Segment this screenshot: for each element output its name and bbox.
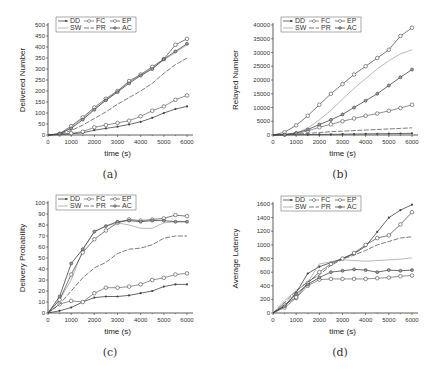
legend-entry-PR: PR — [96, 24, 106, 31]
y-tick-label: 300 — [35, 66, 46, 72]
legend-entry-AC: AC — [122, 202, 132, 209]
series-SW — [48, 222, 187, 313]
x-axis-label: time (s) — [104, 327, 131, 336]
y-tick-label: 800 — [260, 256, 271, 262]
x-tick-label: 3000 — [336, 139, 350, 145]
panel-caption: (a) — [102, 168, 117, 181]
series-DD — [48, 106, 187, 135]
y-tick-label: 40 — [38, 266, 45, 272]
legend-entry-SW: SW — [70, 202, 82, 209]
panel-caption: (b) — [332, 168, 348, 181]
y-tick-label: 1000 — [257, 242, 271, 248]
x-tick-label: 2000 — [88, 139, 102, 145]
y-axis-label: Average Latency — [231, 229, 240, 289]
x-tick-label: 6000 — [405, 317, 419, 323]
legend-entry-SW: SW — [295, 24, 307, 31]
x-tick-label: 0 — [46, 139, 50, 145]
x-tick-label: 0 — [46, 317, 50, 323]
y-tick-label: 35000 — [253, 36, 270, 42]
legend-entry-AC: AC — [122, 24, 132, 31]
y-axis-label: Delivered Number — [18, 47, 27, 112]
y-tick-label: 30 — [38, 277, 45, 283]
x-tick-label: 2000 — [313, 139, 327, 145]
y-tick-label: 400 — [35, 44, 46, 50]
y-tick-label: 50 — [38, 255, 45, 261]
figure-canvas: 0501001502002503003504004505000100020003… — [0, 0, 442, 375]
y-tick-label: 1600 — [257, 201, 271, 207]
series-AC — [273, 269, 412, 313]
legend-entry-DD: DD — [295, 17, 305, 24]
x-tick-label: 1000 — [289, 317, 303, 323]
y-tick-label: 0 — [42, 310, 46, 316]
y-tick-label: 450 — [35, 33, 46, 39]
legend-entry-DD: DD — [70, 195, 80, 202]
series-EP — [273, 28, 412, 135]
y-tick-label: 200 — [260, 296, 271, 302]
series-EP — [48, 39, 187, 135]
x-tick-label: 6000 — [180, 139, 194, 145]
y-tick-label: 20 — [38, 288, 45, 294]
y-tick-label: 50 — [38, 121, 45, 127]
chart-a: 0501001502002503003504004505000100020003… — [18, 17, 194, 181]
legend-entry-PR: PR — [96, 202, 106, 209]
y-tick-label: 0 — [42, 132, 46, 138]
x-axis-label: time (s) — [329, 327, 356, 336]
x-axis-label: time (s) — [329, 149, 356, 158]
legend-entry-EP: EP — [122, 195, 132, 202]
y-tick-label: 0 — [267, 310, 271, 316]
x-tick-label: 6000 — [405, 139, 419, 145]
y-axis-label: Delivery Probability — [18, 224, 27, 292]
panel-caption: (d) — [332, 346, 348, 359]
x-tick-label: 0 — [271, 317, 275, 323]
y-tick-label: 80 — [38, 222, 45, 228]
series-FC — [273, 276, 412, 313]
legend: DDSWFCPREPAC — [56, 195, 136, 210]
series-AC — [48, 221, 187, 313]
y-tick-label: 1200 — [257, 228, 271, 234]
series-AC — [273, 70, 412, 135]
y-tick-label: 1400 — [257, 215, 271, 221]
y-tick-label: 30000 — [253, 50, 270, 56]
y-tick-label: 10000 — [253, 105, 270, 111]
x-tick-label: 4000 — [134, 139, 148, 145]
y-tick-label: 5000 — [257, 118, 271, 124]
y-tick-label: 350 — [35, 55, 46, 61]
legend-entry-PR: PR — [321, 24, 331, 31]
x-tick-label: 6000 — [180, 317, 194, 323]
x-tick-label: 3000 — [111, 317, 125, 323]
legend-entry-AC: AC — [347, 203, 357, 210]
y-tick-label: 150 — [35, 99, 46, 105]
legend-entry-EP: EP — [122, 17, 132, 24]
legend-entry-FC: FC — [96, 17, 105, 24]
series-SW — [273, 258, 412, 313]
series-PR — [273, 237, 412, 313]
legend-entry-AC: AC — [347, 24, 357, 31]
legend-entry-DD: DD — [295, 196, 305, 203]
legend-entry-FC: FC — [96, 195, 105, 202]
series-EP — [273, 212, 412, 313]
legend: DDSWFCPREPAC — [281, 196, 361, 211]
y-tick-label: 15000 — [253, 91, 270, 97]
x-tick-label: 1000 — [64, 139, 78, 145]
legend-entry-EP: EP — [347, 17, 357, 24]
x-tick-label: 2000 — [88, 317, 102, 323]
y-tick-label: 90 — [38, 211, 45, 217]
series-EP — [48, 215, 187, 313]
legend-entry-SW: SW — [295, 203, 307, 210]
x-tick-label: 5000 — [382, 317, 396, 323]
x-tick-label: 1000 — [289, 139, 303, 145]
y-tick-label: 100 — [35, 110, 46, 116]
y-tick-label: 200 — [35, 88, 46, 94]
panel-caption: (c) — [103, 346, 118, 359]
y-tick-label: 500 — [35, 22, 46, 28]
y-tick-label: 10 — [38, 299, 45, 305]
y-tick-label: 20000 — [253, 77, 270, 83]
legend-entry-EP: EP — [347, 196, 357, 203]
chart-b: 0500010000150002000025000300003500040000… — [231, 17, 419, 181]
x-axis-label: time (s) — [104, 149, 131, 158]
x-tick-label: 1000 — [64, 317, 78, 323]
x-tick-label: 0 — [271, 139, 275, 145]
y-tick-label: 600 — [260, 269, 271, 275]
x-tick-label: 4000 — [359, 317, 373, 323]
x-tick-label: 5000 — [157, 317, 171, 323]
